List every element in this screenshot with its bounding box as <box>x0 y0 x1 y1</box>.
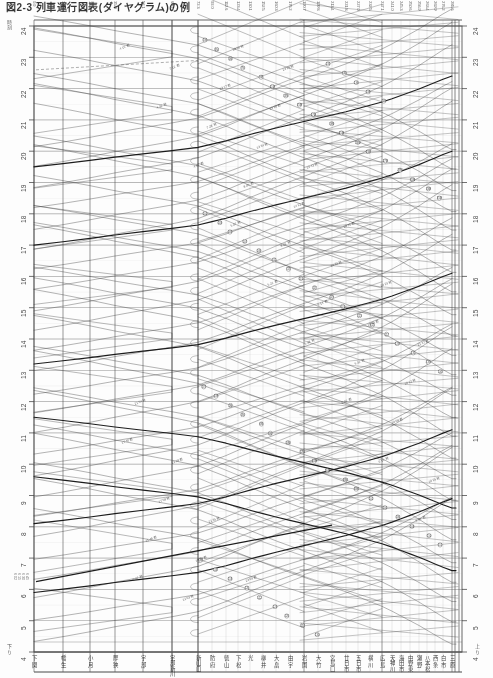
train-line-down <box>34 159 452 289</box>
train-line-up <box>34 315 456 458</box>
train-number-label: 107 <box>243 240 248 244</box>
train-line-mid-up <box>198 450 304 486</box>
train-number-label: 133 <box>426 360 431 364</box>
train-number-label: 119 <box>329 295 334 299</box>
train-turnback-loop <box>191 109 199 116</box>
train-line-mid-up <box>198 243 304 287</box>
station-km-header: 285.6 <box>450 1 454 19</box>
hour-label-right: 6 <box>472 595 479 599</box>
station-km-header: 237.1 <box>380 1 384 19</box>
station-name-label: 五日市 <box>355 655 361 677</box>
station-name-label: 宇 部 <box>140 655 146 677</box>
time-annotation: 5 07 発 <box>230 219 242 228</box>
train-number-label: 19M <box>329 122 334 126</box>
train-line-seg-down <box>304 45 382 72</box>
hour-label-left: 5 <box>20 626 27 630</box>
station-km-header: 269.9 <box>433 1 437 19</box>
time-annotation: 4 32 発 <box>156 101 168 110</box>
train-line-seg-up <box>304 244 382 272</box>
train-turnback-loop <box>191 452 199 459</box>
train-number-label: 122 <box>257 596 262 600</box>
train-number-label: 120 <box>245 586 250 590</box>
train-line-up <box>34 103 456 250</box>
station-name-label: 海田市 <box>398 655 404 677</box>
diagram-page: 図2-3 列車運行図表(ダイヤグラム)の例 1M3M5M7M9M11M13M15… <box>0 0 493 678</box>
time-annotation: 20 29 発 <box>380 278 394 287</box>
station-name-label: 中野東 <box>407 655 413 677</box>
train-line-up <box>34 346 456 478</box>
train-line-commuter-up <box>300 401 458 418</box>
train-line-express <box>34 273 452 364</box>
station-km-header: 276.2 <box>441 1 445 19</box>
hour-label-left: 4 <box>20 657 27 661</box>
train-line-seg-down <box>304 609 382 637</box>
train-line-mid-up <box>198 591 304 628</box>
station-km-header: 245.3 <box>399 1 403 19</box>
hour-label-left: 6 <box>20 595 27 599</box>
train-line-up <box>34 205 456 335</box>
train-line-commuter-up <box>300 262 458 279</box>
train-line-up <box>34 50 456 190</box>
hour-label-left: 22 <box>20 90 27 97</box>
hour-label-left: 14 <box>20 341 27 348</box>
train-number-label: 126 <box>285 614 290 618</box>
station-name-label: 岩 国 <box>301 655 307 677</box>
train-number-label: 7M <box>241 66 245 70</box>
hour-label-left: 7 <box>20 563 27 567</box>
hour-label-right: 23 <box>472 59 479 66</box>
train-number-label: 21M <box>339 131 344 135</box>
train-line-seg-down <box>304 521 382 543</box>
hour-label-left: 8 <box>20 532 27 536</box>
station-km-header: 199.8 <box>316 1 320 19</box>
train-line-mid-down <box>198 183 304 222</box>
train-turnback-loop <box>191 532 199 539</box>
hour-label-left: 23 <box>20 59 27 66</box>
station-km-header: 130.1 <box>248 1 252 19</box>
time-annotation: 6 47 発 <box>132 573 144 582</box>
station-name-label: 天神川 <box>389 655 395 677</box>
train-number-label: 2M <box>229 404 233 408</box>
station-km-header: 256.9 <box>417 1 421 19</box>
hour-label-right: 16 <box>472 278 479 285</box>
hour-label-right: 10 <box>472 466 479 473</box>
train-turnback-loop <box>191 207 199 214</box>
station-km-header: 250.6 <box>408 1 412 19</box>
station-km-header: 227.0 <box>356 1 360 19</box>
train-line-seg-down <box>304 96 382 120</box>
sub-time-mark: 6 45 <box>24 573 28 580</box>
train-number-label: 35M <box>437 196 442 200</box>
train-line-mid-up <box>198 131 304 166</box>
station-km-header: 232.5 <box>368 1 372 19</box>
station-km-header: 52.1 <box>141 1 145 19</box>
train-line-mid-down <box>198 285 304 330</box>
train-number-label: 136 <box>354 81 359 85</box>
train-line-commuter-up <box>300 33 458 47</box>
train-line-seg-up <box>304 424 382 447</box>
train-line-commuter-down <box>300 22 458 36</box>
station-name-label: 徳 山 <box>223 655 229 677</box>
train-number-label: 25M <box>366 150 371 154</box>
train-number-label: 121 <box>341 305 346 309</box>
train-number-label: 134 <box>342 71 347 75</box>
station-name-label: 広 島 <box>379 655 385 677</box>
train-line-seg-up <box>304 266 382 288</box>
train-number-label: 11M <box>270 85 275 89</box>
train-line-local-left <box>34 520 172 572</box>
train-turnback-loop <box>191 223 199 230</box>
train-turnback-loop <box>191 420 199 427</box>
station-km-header: 190.7 <box>302 1 306 19</box>
station-name-label: 幡 生 <box>60 655 66 677</box>
hour-label-right: 22 <box>472 90 479 97</box>
train-line-up <box>34 479 456 622</box>
station-name-label: 新山口 <box>195 655 201 677</box>
hour-label-left: 13 <box>20 372 27 379</box>
train-line-commuter-down <box>300 515 458 530</box>
hour-label-left: 9 <box>20 501 27 505</box>
station-name-label: 小 月 <box>87 655 93 677</box>
train-line-seg-up <box>304 594 382 617</box>
train-line-down <box>34 433 452 560</box>
train-line-commuter-down <box>300 157 458 173</box>
train-line-mid-up <box>198 209 304 254</box>
time-annotation: 22 18 着 <box>171 456 184 465</box>
train-line-commuter-down <box>300 48 458 63</box>
